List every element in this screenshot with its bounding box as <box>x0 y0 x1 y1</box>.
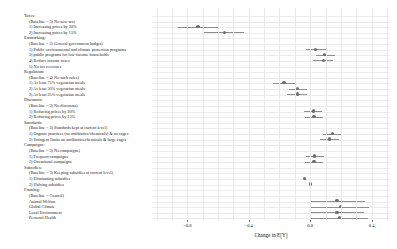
grid-line-vertical <box>387 8 388 220</box>
estimate-point <box>296 92 299 95</box>
level-label: 2) Halving subsidies <box>29 183 64 187</box>
baseline-label: (Baseline = 3) Standards kept at current… <box>29 126 107 130</box>
grid-line-vertical <box>203 8 204 220</box>
level-label: 2) Occasional campaigns <box>29 160 72 164</box>
estimate-point <box>313 154 316 157</box>
estimate-point <box>312 160 315 163</box>
level-label: Local Environment <box>29 211 62 215</box>
grid-line-vertical <box>233 8 234 220</box>
group-label: Discounts: <box>24 98 43 102</box>
group-label: Subsidies: <box>24 166 42 170</box>
level-label: 2) At least 50% vegetarian meals <box>29 87 85 91</box>
baseline-label: (Baseline = 2) General government budget… <box>29 42 103 46</box>
baseline-label: (Baseline = 3) No campaigns) <box>29 149 80 153</box>
group-label: Standards: <box>24 121 42 125</box>
estimate-point <box>331 132 334 135</box>
level-label: 1) At least 75% vegetarian meals <box>29 81 85 85</box>
grid-line-vertical <box>372 8 373 220</box>
level-label: 4) Reduce income taxes <box>29 59 70 63</box>
baseline-label: (Baseline = 3) No discounts) <box>29 104 78 108</box>
estimate-point <box>328 137 331 140</box>
grid-line-vertical <box>310 8 311 220</box>
grid-line-vertical <box>187 8 188 220</box>
grid-line-vertical <box>279 8 280 220</box>
baseline-label: (Baseline = Control) <box>29 194 64 198</box>
level-label: 1) Eliminating subsidies <box>29 177 70 181</box>
grid-line-vertical <box>157 8 158 220</box>
baseline-label: (Baseline = 3) No new tax) <box>29 20 75 24</box>
x-axis-tick <box>310 220 311 222</box>
level-label: 3) At least 25% vegetarian meals <box>29 93 85 97</box>
grid-line-vertical <box>172 8 173 220</box>
baseline-label: (Baseline = 3) Keeping subsidies at curr… <box>29 171 113 175</box>
level-label: 1) Public environmental and climate prot… <box>29 48 126 52</box>
baseline-label: (Baseline = 4) No such rules) <box>29 76 79 80</box>
level-label: 1) Increasing prices by 30% <box>29 25 77 29</box>
x-axis: Change in E[Y] −0.8−0.40.00.4 <box>152 220 390 249</box>
grid-line-vertical <box>249 8 250 220</box>
x-axis-tick <box>372 220 373 222</box>
grid-line-vertical <box>356 8 357 220</box>
group-label: Framing: <box>24 188 40 192</box>
row-label-column: Taxes:(Baseline = 3) No new tax)1) Incre… <box>0 0 152 249</box>
x-axis-tick-label: −0.8 <box>183 223 191 228</box>
estimate-point <box>196 25 199 28</box>
level-label: 2) Reducing prices by 15% <box>29 115 75 119</box>
x-axis-tick <box>249 220 250 222</box>
estimate-point <box>282 81 285 84</box>
coefficient-plot-figure: Taxes:(Baseline = 3) No new tax)1) Incre… <box>0 0 397 249</box>
group-label: Earmarking: <box>24 36 46 40</box>
level-label: Animal Welfare <box>29 200 56 204</box>
level-label: 2) Stringent limits on antibiotics/chemi… <box>29 138 126 142</box>
estimate-point <box>335 211 338 214</box>
level-label: 3) public programs for low-income househ… <box>29 53 109 57</box>
x-axis-title: Change in E[Y] <box>152 232 390 238</box>
grid-line-vertical <box>341 8 342 220</box>
estimate-point <box>296 87 299 90</box>
x-axis-tick-label: −0.4 <box>245 223 253 228</box>
x-axis-tick-label: 0.0 <box>307 223 313 228</box>
grid-line-vertical <box>295 8 296 220</box>
grid-line-vertical <box>218 8 219 220</box>
level-label: 1) Reducing prices by 30% <box>29 110 75 114</box>
plot-panel <box>152 8 390 220</box>
level-label: 1) Frequent campaigns <box>29 155 68 159</box>
estimate-point <box>314 48 317 51</box>
level-label: Global Climate <box>29 205 55 209</box>
group-label: Taxes: <box>24 14 35 18</box>
level-label: 1) Organic practices (no antibiotics/che… <box>29 132 128 136</box>
estimate-point <box>303 177 306 180</box>
level-label: 2) Increasing prices by 15% <box>29 31 77 35</box>
estimate-point <box>335 199 338 202</box>
estimate-point <box>223 31 226 34</box>
x-axis-tick <box>187 220 188 222</box>
level-label: 5) No tax revenues <box>29 65 61 69</box>
level-label: Personal Health <box>29 216 56 220</box>
group-label: Campaigns: <box>24 143 45 147</box>
estimate-point <box>312 115 315 118</box>
group-label: Regulation: <box>24 70 44 74</box>
grid-line-vertical <box>264 8 265 220</box>
grid-line-vertical <box>326 8 327 220</box>
estimate-point <box>322 59 325 62</box>
x-axis-tick-label: 0.4 <box>369 223 375 228</box>
estimate-point <box>312 109 315 112</box>
